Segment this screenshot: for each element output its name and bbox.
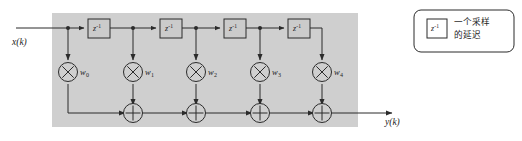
- multiplier-4: [313, 63, 332, 82]
- fir-filter-diagram: [0, 0, 522, 141]
- delay-block-4-label: z-1: [293, 25, 301, 33]
- multiplier-1: [124, 63, 143, 82]
- legend-delay-label: z-1: [431, 25, 439, 33]
- weight-label-3: w3: [272, 68, 281, 77]
- tap-node-0: [66, 26, 70, 30]
- input-signal-label: x(k): [12, 38, 27, 48]
- delay-block-3-label: z-1: [229, 25, 237, 33]
- legend-line-1: 一个采样: [454, 17, 490, 29]
- weight-label-0: w0: [80, 68, 89, 77]
- multiplier-2: [187, 63, 206, 82]
- weight-label-1: w1: [145, 68, 154, 77]
- output-signal-label: y(k): [385, 118, 400, 128]
- figure-root: x(k) y(k) z-1 z-1 z-1 z-1 w0 w1 w2 w3 w4…: [0, 0, 522, 141]
- adder-2: [187, 104, 206, 123]
- adder-4: [313, 104, 332, 123]
- delay-block-2-label: z-1: [165, 25, 173, 33]
- tap-node-3: [258, 26, 262, 30]
- legend-line-2: 的延迟: [454, 30, 481, 42]
- delay-block-1-label: z-1: [93, 25, 101, 33]
- adder-3: [251, 104, 270, 123]
- tap-node-1: [131, 26, 135, 30]
- weight-label-2: w2: [208, 68, 217, 77]
- weight-label-4: w4: [334, 68, 343, 77]
- adder-1: [124, 104, 143, 123]
- multiplier-0: [59, 63, 78, 82]
- tap-node-2: [194, 26, 198, 30]
- multiplier-3: [251, 63, 270, 82]
